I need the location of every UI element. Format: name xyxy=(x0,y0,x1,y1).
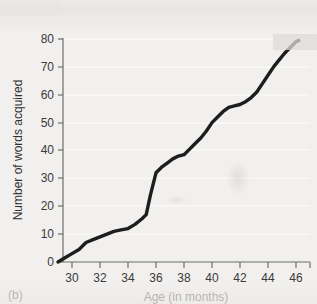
x-axis-title: Age (in months) xyxy=(144,290,229,304)
x-tick-label-40: 40 xyxy=(205,271,219,285)
y-tick-label-30: 30 xyxy=(41,171,55,185)
data-series-line xyxy=(58,40,299,262)
y-tick-label-60: 60 xyxy=(41,88,55,102)
figure-panel-b: 80 70 60 50 40 30 20 10 0 30 32 34 36 xyxy=(0,0,317,304)
line-chart: 80 70 60 50 40 30 20 10 0 30 32 34 36 xyxy=(0,16,317,304)
y-tick-label-70: 70 xyxy=(41,60,55,74)
x-tick-label-36: 36 xyxy=(149,271,163,285)
x-tick-label-46: 46 xyxy=(289,271,303,285)
x-tick-label-38: 38 xyxy=(177,271,191,285)
scan-artifact-left xyxy=(0,0,60,16)
x-tick-label-30: 30 xyxy=(65,271,79,285)
x-tick-label-34: 34 xyxy=(121,271,135,285)
y-tick-label-40: 40 xyxy=(41,143,55,157)
x-tick-label-44: 44 xyxy=(261,271,275,285)
x-axis: 30 32 34 36 38 40 42 44 46 xyxy=(63,262,310,285)
y-tick-label-0: 0 xyxy=(47,255,54,269)
y-axis-title: Number of words acquired xyxy=(11,80,25,221)
x-tick-label-42: 42 xyxy=(233,271,247,285)
y-tick-label-10: 10 xyxy=(41,227,55,241)
y-axis: 80 70 60 50 40 30 20 10 0 xyxy=(41,32,63,269)
scan-artifact-right xyxy=(273,34,317,50)
x-tick-label-32: 32 xyxy=(93,271,107,285)
y-tick-label-50: 50 xyxy=(41,116,55,130)
y-tick-label-80: 80 xyxy=(41,32,55,46)
panel-label: (b) xyxy=(8,288,23,302)
y-tick-label-20: 20 xyxy=(41,199,55,213)
